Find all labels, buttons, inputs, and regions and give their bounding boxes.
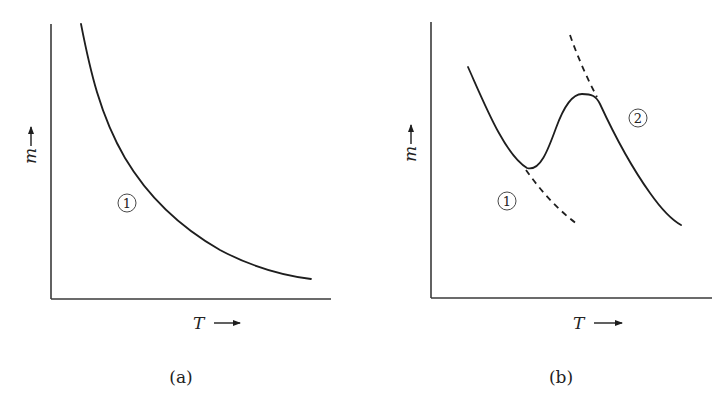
caption-b: (b) [549,367,573,387]
y-label-m: m [20,148,40,164]
curve-measured-b [468,67,681,225]
y-label-m: m [400,146,420,162]
curve-1-a [81,24,311,279]
dashed-extrapolation-2-b [570,35,597,97]
curve-label-1-a: ① 1 [118,194,136,212]
figure: m T ① 1 (a) m T 1 2 [0,0,724,415]
panel-a: m T ① 1 (a) [20,24,331,387]
curve-label-2-b: 2 [629,109,647,127]
x-label-t: T [193,313,206,333]
y-axis-label-b: m [400,125,420,162]
curve-label-1-b: 1 [498,192,516,210]
dashed-extrapolation-1-b [526,170,577,224]
caption-a: (a) [169,367,192,387]
y-axis-label-a: m [20,127,40,164]
panel-b: m T 1 2 (b) [400,22,712,387]
svg-text:2: 2 [634,111,642,126]
svg-text:1: 1 [123,196,131,211]
svg-text:1: 1 [503,194,511,209]
x-label-t: T [573,313,586,333]
